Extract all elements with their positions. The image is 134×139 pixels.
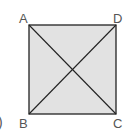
vertex-label-a: A: [19, 12, 28, 25]
vertex-label-c: C: [113, 117, 122, 130]
paren-fragment: ): [0, 115, 3, 129]
vertex-label-d: D: [113, 12, 122, 25]
vertex-label-b: B: [19, 117, 28, 130]
square-diagram: A D B C ): [0, 0, 134, 139]
